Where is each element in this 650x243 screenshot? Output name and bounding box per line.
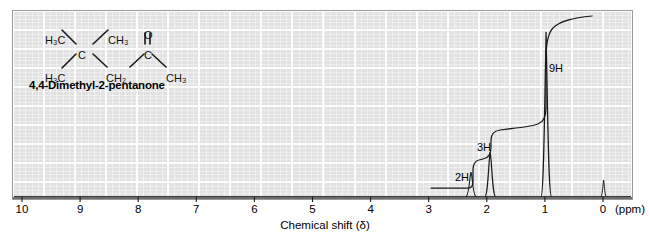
x-axis-title: Chemical shift (δ): [0, 219, 650, 231]
x-tick-8: 8: [135, 203, 141, 215]
x-tick-1: 1: [542, 203, 548, 215]
x-tick-10: 10: [16, 203, 29, 215]
integration-label-2h: 2H: [455, 171, 469, 183]
atom-label-oxygen: O: [144, 29, 153, 41]
x-tick-0: 0: [600, 203, 606, 215]
x-tick-6: 6: [251, 203, 257, 215]
x-tick-2: 2: [484, 203, 490, 215]
compound-name-label: 4,4-Dimethyl-2-pentanone: [29, 79, 165, 91]
atom-label-ch3-right: CH₃: [166, 72, 186, 84]
x-tick-5: 5: [309, 203, 315, 215]
integration-label-9h: 9H: [549, 62, 563, 74]
atom-label-quaternary-carbon: C: [78, 49, 86, 61]
x-tick-3: 3: [425, 203, 431, 215]
integration-label-3h: 3H: [477, 141, 491, 153]
x-tick-7: 7: [193, 203, 199, 215]
x-tick-9: 9: [77, 203, 83, 215]
atom-label-h3c-top: H₃C: [45, 34, 65, 46]
x-axis-unit-label: (ppm): [615, 203, 645, 215]
nmr-spectrum-figure: H₃C CH₃ O C C H₃C CH₂ CH₃ 4,4-Dimethyl-2…: [0, 0, 650, 243]
atom-label-carbonyl-carbon: C: [144, 49, 152, 61]
atom-label-ch3-top: CH₃: [108, 34, 128, 46]
x-tick-4: 4: [367, 203, 373, 215]
